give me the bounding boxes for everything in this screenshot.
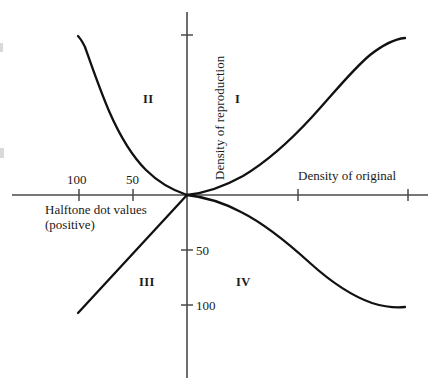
y-axis-tick-label-50: 50 <box>196 243 209 258</box>
x-axis-left-title-line1: Halftone dot values <box>45 202 147 217</box>
x-axis-right-title: Density of original <box>298 168 396 183</box>
quadrant-label-4: IV <box>236 275 251 290</box>
quadrant-label-3: III <box>139 275 155 290</box>
page-edge-artifact-top <box>0 43 3 52</box>
x-axis-tick-label-100: 100 <box>67 172 87 187</box>
y-axis-tick-label-100: 100 <box>196 298 216 313</box>
y-axis-title: Density of reproduction <box>212 56 228 180</box>
tone-reproduction-diagram: 100 50 50 100 Density of original Halfto… <box>0 0 435 384</box>
x-axis-left-title-line2: (positive) <box>45 217 95 232</box>
page-edge-artifact-middle <box>0 148 4 158</box>
quadrant-label-1: I <box>235 92 240 107</box>
quadrant-label-2: II <box>143 92 154 107</box>
curve-quadrant-4 <box>187 195 405 307</box>
x-axis-tick-label-50: 50 <box>126 172 139 187</box>
